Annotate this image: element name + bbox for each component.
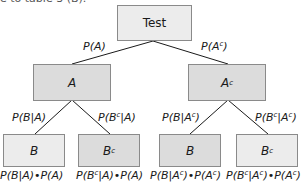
edge-label-p-a: P(A) <box>83 40 106 53</box>
edge-label-p-bc-given-ac: P(Bc|Ac) <box>255 111 297 124</box>
node-a: A <box>33 64 111 101</box>
node-bc-under-a: Bc <box>78 134 140 167</box>
edge-label-p-a-complement: P(Ac) <box>201 40 228 53</box>
edge-label-p-b-given-a: P(B|A) <box>12 111 46 124</box>
product-b-a: P(B|A)•P(A) <box>0 169 63 182</box>
node-b-under-a: B <box>3 134 65 167</box>
product-b-ac: P(B|Ac)•P(Ac) <box>150 169 221 182</box>
root-label: Test <box>143 16 167 30</box>
product-bc-ac: P(Bc|Ac)•P(Ac) <box>226 169 301 182</box>
node-bc-under-ac: Bc <box>236 134 298 167</box>
node-a-complement: Ac <box>188 64 266 101</box>
product-bc-a: P(Bc|A)•P(A) <box>76 169 143 182</box>
node-b-under-ac: B <box>159 134 221 167</box>
edge-label-p-b-given-ac: P(B|Ac) <box>162 111 200 124</box>
edge-label-p-bc-given-a: P(Bc|A) <box>98 111 136 124</box>
root-node-test: Test <box>117 5 192 41</box>
